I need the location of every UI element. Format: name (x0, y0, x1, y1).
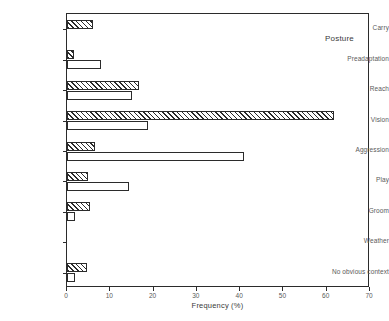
y-axis-label: Vision (329, 116, 389, 124)
y-axis-label: Aggression (329, 146, 389, 154)
plot-area: Posture (66, 13, 369, 287)
bar-row (67, 14, 368, 288)
x-axis-tick-label: 70 (365, 292, 372, 299)
y-axis-label: Carry (329, 24, 389, 32)
chart-figure: Posture CarryPreadaptationReachVisionAgg… (0, 0, 389, 321)
x-axis-tick (282, 287, 283, 291)
y-axis-label: Groom (329, 207, 389, 215)
x-axis-tick (153, 287, 154, 291)
x-axis-tick-label: 50 (279, 292, 286, 299)
x-axis-tick-label: 0 (64, 292, 68, 299)
x-axis-tick-label: 10 (106, 292, 113, 299)
x-axis-tick (369, 287, 370, 291)
y-axis-label: Weather (329, 237, 389, 245)
x-axis-tick-label: 20 (149, 292, 156, 299)
bar-open (67, 273, 75, 282)
x-axis-tick-label: 60 (322, 292, 329, 299)
y-axis-label: Preadaptation (329, 55, 389, 63)
y-axis-tick (63, 273, 67, 274)
y-axis-label: Play (329, 176, 389, 184)
x-axis-tick (239, 287, 240, 291)
x-axis-tick (109, 287, 110, 291)
y-axis-label: No obvious context (329, 268, 389, 276)
bar-hatched (67, 263, 87, 272)
x-axis-tick (196, 287, 197, 291)
x-axis-tick-label: 40 (236, 292, 243, 299)
x-axis-tick (326, 287, 327, 291)
x-axis-title: Frequency (%) (66, 301, 369, 310)
x-axis-tick-label: 30 (192, 292, 199, 299)
x-axis-tick (66, 287, 67, 291)
y-axis-label: Reach (329, 85, 389, 93)
